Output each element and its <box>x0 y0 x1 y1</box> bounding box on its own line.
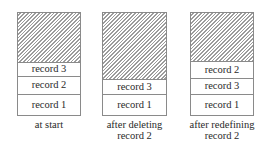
caption-line: record 2 <box>92 130 177 141</box>
record-block: record 2 <box>191 62 253 79</box>
record-block: record 1 <box>103 95 166 115</box>
free-space-hatched <box>18 13 80 63</box>
record-block: record 1 <box>18 95 80 115</box>
column-at-start: record 3 record 2 record 1 <box>17 12 81 116</box>
record-block: record 3 <box>191 79 253 95</box>
record-block: record 2 <box>18 77 80 95</box>
caption-after-deleting: after deleting record 2 <box>92 119 177 141</box>
record-block: record 3 <box>18 63 80 77</box>
caption-after-redefining: after redefining record 2 <box>177 119 262 141</box>
record-block: record 1 <box>191 95 253 115</box>
memory-stack: record 3 record 2 record 1 <box>17 12 81 116</box>
memory-stack: record 2 record 3 record 1 <box>190 12 254 116</box>
free-space-hatched <box>103 13 166 80</box>
caption-line: record 2 <box>177 130 262 141</box>
caption-line: at start <box>17 119 81 130</box>
record-block: record 3 <box>103 80 166 95</box>
memory-stack: record 3 record 1 <box>102 12 167 116</box>
free-space-hatched <box>191 13 253 62</box>
caption-at-start: at start <box>17 119 81 130</box>
column-after-deleting: record 3 record 1 <box>102 12 167 116</box>
column-after-redefining: record 2 record 3 record 1 <box>190 12 254 116</box>
caption-line: after redefining <box>177 119 262 130</box>
caption-line: after deleting <box>92 119 177 130</box>
